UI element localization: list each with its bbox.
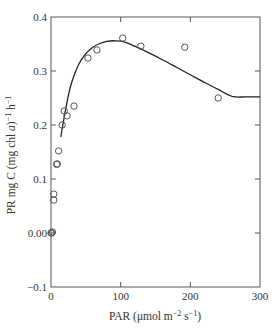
data-point-marker (182, 44, 188, 50)
y-tick-label: 0.00 (28, 227, 48, 239)
data-points (48, 35, 222, 236)
data-point-marker (51, 197, 57, 203)
data-point-marker (55, 148, 61, 154)
x-tick-label: 200 (182, 290, 199, 302)
y-tick-label: 0.1 (33, 173, 47, 185)
x-tick-label: 300 (252, 290, 269, 302)
data-point-marker (51, 191, 57, 197)
data-point-marker (120, 35, 126, 41)
y-tick-label: −0.1 (27, 281, 47, 293)
axis-tick-labels: 0100200300−0.10.000.10.20.30.4 (27, 11, 269, 302)
y-tick-label: 0.2 (33, 119, 47, 131)
data-point-marker (94, 47, 100, 53)
data-point-marker (71, 103, 77, 109)
x-tick-label: 100 (112, 290, 129, 302)
x-tick-label: 0 (48, 290, 54, 302)
fitted-curve (61, 41, 260, 137)
data-point-marker (85, 55, 91, 61)
chart: 0100200300−0.10.000.10.20.30.4 PAR (μmol… (0, 0, 278, 329)
y-tick-label: 0.4 (33, 11, 47, 23)
data-point-marker (215, 95, 221, 101)
y-axis-label: PR mg C (mg chl a)−1 h−1 (4, 96, 18, 215)
x-axis-label: PAR (μmol m−2 s−1) (109, 309, 201, 323)
y-tick-label: 0.3 (33, 65, 47, 77)
fitted-curve-line (61, 41, 260, 137)
